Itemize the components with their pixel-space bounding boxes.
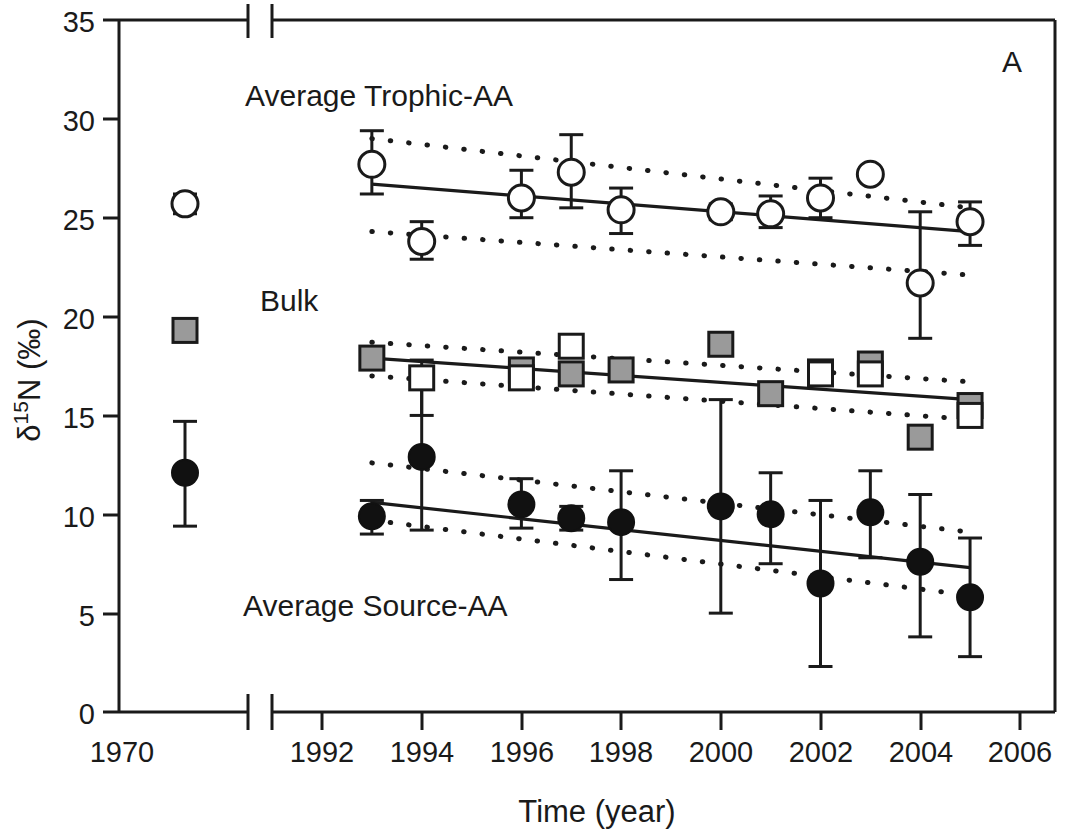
data-point-filled-circle [608, 509, 634, 535]
data-point-open-circle [808, 185, 834, 211]
data-point-open-circle [409, 228, 435, 254]
data-point-filled-circle [558, 505, 584, 531]
x-tick-label-1996: 1996 [490, 736, 555, 768]
x-tick-label-2006: 2006 [988, 736, 1053, 768]
data-point-open-square [858, 362, 882, 386]
data-point-filled-circle [708, 493, 734, 519]
annotation-trophic-aa: Average Trophic-AA [245, 79, 513, 112]
data-point-open-circle [907, 270, 933, 296]
data-point-open-square [559, 334, 583, 358]
y-axis-title-delta: δ [12, 424, 47, 441]
data-point-filled-circle [808, 570, 834, 596]
y-tick-label: 25 [63, 204, 95, 236]
y-tick-label: 0 [79, 698, 95, 730]
data-point-gray-square [759, 382, 783, 406]
annotation-source-aa: Average Source-AA [243, 589, 508, 622]
y-tick-label: 30 [63, 105, 95, 137]
data-point-gray-square [709, 332, 733, 356]
data-point-open-circle [758, 201, 784, 227]
data-point-filled-circle [957, 584, 983, 610]
data-point-filled-circle [508, 491, 534, 517]
y-axis-title-superscript: 15 [9, 401, 32, 424]
data-point-open-circle [857, 161, 883, 187]
x-tick-label-2004: 2004 [889, 736, 954, 768]
data-point-open-square [509, 366, 533, 390]
x-ticks [322, 712, 1020, 730]
x-tick-label-1992: 1992 [290, 736, 355, 768]
y-axis-title: δ15N (‰) [9, 318, 47, 441]
x-tick-label-1970: 1970 [90, 736, 155, 768]
data-point-filled-circle [409, 444, 435, 470]
y-ticks [103, 20, 119, 712]
x-tick-label-2002: 2002 [789, 736, 854, 768]
data-point-open-square [809, 362, 833, 386]
data-point-filled-circle [758, 501, 784, 527]
x-tick-label-1994: 1994 [390, 736, 455, 768]
data-plot-layer [172, 131, 983, 667]
data-point-gray-square [908, 425, 932, 449]
data-point-filled-circle [172, 460, 198, 486]
y-tick-label: 35 [63, 6, 95, 38]
y-tick-label: 10 [63, 501, 95, 533]
x-tick-labels: 1970 1992 1994 1996 1998 2000 2002 2004 … [90, 736, 1053, 768]
chart-svg: 35 30 25 20 15 10 5 0 1970 1992 1994 199… [0, 0, 1074, 838]
y-tick-labels: 35 30 25 20 15 10 5 0 [63, 6, 95, 730]
data-point-filled-circle [857, 499, 883, 525]
data-point-gray-square [559, 362, 583, 386]
panel-label-a: A [1002, 45, 1022, 78]
y-tick-label: 20 [63, 303, 95, 335]
x-tick-label-1998: 1998 [589, 736, 654, 768]
data-point-open-circle [508, 185, 534, 211]
y-tick-label: 15 [63, 402, 95, 434]
annotation-bulk: Bulk [260, 284, 319, 317]
confidence-band-ci-lower [372, 232, 970, 275]
data-point-open-circle [957, 209, 983, 235]
data-point-gray-square [173, 318, 197, 342]
svg-text:δ15N (‰): δ15N (‰) [9, 318, 47, 441]
figure-panel-a: 35 30 25 20 15 10 5 0 1970 1992 1994 199… [0, 0, 1074, 838]
data-point-open-square [410, 366, 434, 390]
data-point-open-circle [172, 191, 198, 217]
data-point-gray-square [609, 358, 633, 382]
data-point-open-square [958, 403, 982, 427]
x-axis-title: Time (year) [518, 794, 675, 829]
data-point-filled-circle [907, 549, 933, 575]
data-point-open-circle [359, 151, 385, 177]
data-point-open-circle [608, 197, 634, 223]
x-tick-label-2000: 2000 [689, 736, 754, 768]
data-point-filled-circle [359, 503, 385, 529]
data-point-open-circle [708, 199, 734, 225]
data-point-gray-square [360, 346, 384, 370]
data-point-open-circle [558, 159, 584, 185]
y-axis-title-rest: N (‰) [12, 318, 47, 401]
regression-line [372, 184, 970, 231]
y-tick-label: 5 [79, 600, 95, 632]
